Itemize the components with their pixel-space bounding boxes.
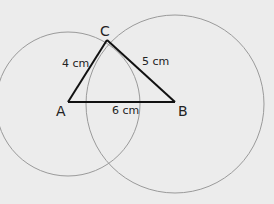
side-label-bc: 5 cm: [142, 56, 169, 67]
vertex-label-c: C: [100, 24, 110, 38]
side-ac: [68, 40, 107, 102]
side-label-ab: 6 cm: [112, 105, 139, 116]
vertex-label-a: A: [56, 104, 66, 118]
construction-diagram: [0, 0, 274, 204]
vertex-label-b: B: [178, 104, 188, 118]
side-label-ac: 4 cm: [62, 58, 89, 69]
side-bc: [107, 40, 175, 102]
